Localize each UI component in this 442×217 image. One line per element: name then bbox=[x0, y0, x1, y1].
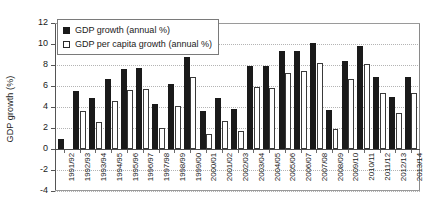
bar-gdp-growth-1992-93 bbox=[73, 91, 79, 149]
x-tick-mark-1999-00 bbox=[190, 150, 191, 153]
x-tick-mark-1993-94 bbox=[95, 150, 96, 153]
bar-gdp-per-capita-growth-2007-08 bbox=[317, 63, 323, 149]
chart-legend: GDP growth (annual %) GDP per capita gro… bbox=[57, 19, 219, 55]
bar-gdp-growth-1996-97 bbox=[136, 68, 142, 149]
legend-swatch-dark-icon bbox=[63, 27, 70, 34]
y-tick-label-10: 10 bbox=[24, 38, 48, 48]
bar-gdp-per-capita-growth-2010-11 bbox=[364, 64, 370, 149]
bar-gdp-growth-2005-06 bbox=[279, 51, 285, 149]
bar-gdp-per-capita-growth-2001-02 bbox=[222, 121, 228, 149]
x-tick-label-2012-13: 2012/13 bbox=[399, 153, 408, 181]
x-tick-mark-1995-96 bbox=[127, 150, 128, 153]
x-tick-mark-2008-09 bbox=[332, 150, 333, 153]
bar-gdp-growth-2013-14 bbox=[405, 77, 411, 149]
x-tick-label-1995-96: 1995/96 bbox=[131, 153, 140, 181]
y-tick-label-4: 4 bbox=[24, 101, 48, 111]
x-tick-mark-1996-97 bbox=[143, 150, 144, 153]
x-tick-mark-1997-98 bbox=[159, 150, 160, 153]
bar-gdp-growth-2012-13 bbox=[389, 97, 395, 150]
x-tick-mark-2005-06 bbox=[285, 150, 286, 153]
bar-gdp-growth-1999-00 bbox=[184, 57, 190, 149]
y-tick-label-12: 12 bbox=[24, 17, 48, 27]
legend-item-gdp-per-capita-growth: GDP per capita growth (annual %) bbox=[63, 37, 212, 51]
bar-gdp-growth-2004-05 bbox=[263, 66, 269, 149]
x-tick-label-2001-02: 2001/02 bbox=[225, 153, 234, 181]
x-tick-mark-2003-04 bbox=[253, 150, 254, 153]
x-tick-label-2005-06: 2005/06 bbox=[288, 153, 297, 181]
bar-gdp-growth-1991-92 bbox=[58, 139, 64, 150]
bar-gdp-growth-2010-11 bbox=[357, 46, 363, 149]
x-tick-label-1993-94: 1993/94 bbox=[99, 153, 108, 181]
bar-gdp-per-capita-growth-1992-93 bbox=[80, 111, 86, 149]
y-tick-label-6: 6 bbox=[24, 80, 48, 90]
x-tick-mark-2006-07 bbox=[301, 150, 302, 153]
x-tick-label-2010-11: 2010/11 bbox=[367, 153, 376, 181]
y-axis-title-text: GDP growth (%) bbox=[5, 75, 15, 142]
x-tick-label-1991-92: 1991/92 bbox=[67, 153, 76, 181]
bar-gdp-growth-2009-10 bbox=[342, 61, 348, 149]
x-tick-mark-2004-05 bbox=[269, 150, 270, 153]
x-tick-label-2011-12: 2011/12 bbox=[383, 153, 392, 181]
x-tick-mark-1998-99 bbox=[174, 150, 175, 153]
x-tick-label-1998-99: 1998/99 bbox=[178, 153, 187, 181]
x-tick-mark-2009-10 bbox=[348, 150, 349, 153]
bar-gdp-per-capita-growth-2003-04 bbox=[254, 87, 260, 149]
legend-label-gdp-per-capita-growth: GDP per capita growth (annual %) bbox=[75, 39, 212, 49]
y-tick-label--4: -4 bbox=[24, 185, 48, 195]
x-tick-mark-1992-93 bbox=[80, 150, 81, 153]
bar-gdp-per-capita-growth-2009-10 bbox=[348, 79, 354, 149]
bar-gdp-per-capita-growth-2011-12 bbox=[380, 93, 386, 149]
x-tick-mark-2001-02 bbox=[222, 150, 223, 153]
bar-gdp-growth-1998-99 bbox=[168, 84, 174, 149]
x-axis-labels: 1991/921992/931993/941994/951995/961996/… bbox=[56, 150, 419, 216]
bar-gdp-per-capita-growth-1993-94 bbox=[96, 122, 102, 149]
x-tick-label-2007-08: 2007/08 bbox=[320, 153, 329, 181]
y-tick-label--2: -2 bbox=[24, 164, 48, 174]
bar-gdp-per-capita-growth-2004-05 bbox=[269, 88, 275, 149]
x-tick-mark-2010-11 bbox=[364, 150, 365, 153]
bar-gdp-growth-2003-04 bbox=[247, 66, 253, 149]
x-tick-mark-1991-92 bbox=[64, 150, 65, 153]
bar-gdp-per-capita-growth-1995-96 bbox=[127, 90, 133, 149]
bar-gdp-per-capita-growth-1999-00 bbox=[190, 77, 196, 149]
bar-gdp-growth-2000-01 bbox=[200, 111, 206, 149]
bar-gdp-growth-2008-09 bbox=[326, 110, 332, 149]
x-tick-mark-2013-14 bbox=[411, 150, 412, 153]
bar-gdp-per-capita-growth-1997-98 bbox=[159, 128, 165, 149]
bar-gdp-per-capita-growth-1998-99 bbox=[175, 106, 181, 149]
x-tick-label-1994-95: 1994/95 bbox=[115, 153, 124, 181]
bar-gdp-per-capita-growth-1994-95 bbox=[112, 101, 118, 149]
x-tick-mark-2012-13 bbox=[395, 150, 396, 153]
x-tick-label-2002-03: 2002/03 bbox=[241, 153, 250, 181]
bar-gdp-growth-2001-02 bbox=[215, 98, 221, 149]
bar-gdp-growth-2007-08 bbox=[310, 43, 316, 149]
bar-gdp-per-capita-growth-2006-07 bbox=[301, 71, 307, 149]
legend-swatch-light-icon bbox=[63, 41, 70, 48]
x-tick-label-2004-05: 2004/05 bbox=[273, 153, 282, 181]
bar-gdp-per-capita-growth-2000-01 bbox=[206, 134, 212, 149]
bar-gdp-growth-1994-95 bbox=[105, 79, 111, 149]
bar-gdp-per-capita-growth-1996-97 bbox=[143, 89, 149, 149]
bar-gdp-growth-2006-07 bbox=[294, 51, 300, 149]
y-tick-label-2: 2 bbox=[24, 122, 48, 132]
x-tick-label-1992-93: 1992/93 bbox=[83, 153, 92, 181]
y-axis-title: GDP growth (%) bbox=[2, 0, 18, 217]
x-tick-label-1996-97: 1996/97 bbox=[146, 153, 155, 181]
x-tick-label-2006-07: 2006/07 bbox=[304, 153, 313, 181]
y-tick-mark--4 bbox=[51, 191, 55, 192]
y-tick-label-8: 8 bbox=[24, 59, 48, 69]
bar-gdp-per-capita-growth-2008-09 bbox=[333, 129, 339, 149]
bar-gdp-growth-1995-96 bbox=[121, 69, 127, 149]
bar-gdp-per-capita-growth-2013-14 bbox=[411, 93, 417, 149]
x-tick-label-2003-04: 2003/04 bbox=[257, 153, 266, 181]
bar-gdp-growth-2002-03 bbox=[231, 109, 237, 149]
x-tick-label-2000-01: 2000/01 bbox=[209, 153, 218, 181]
x-tick-mark-2011-12 bbox=[380, 150, 381, 153]
bar-gdp-growth-2011-12 bbox=[373, 77, 379, 149]
x-tick-label-2009-10: 2009/10 bbox=[351, 153, 360, 181]
x-tick-label-1999-00: 1999/00 bbox=[194, 153, 203, 181]
bar-gdp-per-capita-growth-2002-03 bbox=[238, 131, 244, 149]
x-tick-mark-1994-95 bbox=[111, 150, 112, 153]
x-tick-label-2008-09: 2008/09 bbox=[336, 153, 345, 181]
bar-gdp-per-capita-growth-2005-06 bbox=[285, 73, 291, 149]
